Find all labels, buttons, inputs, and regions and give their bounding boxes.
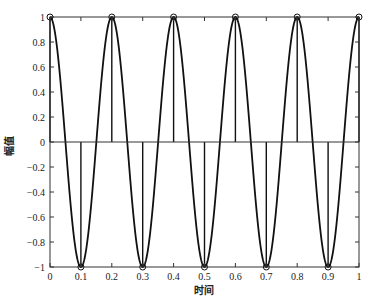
x-tick-label: 0.4	[167, 271, 180, 282]
y-tick-label: −0.4	[27, 187, 45, 198]
y-tick-label: 0.6	[33, 62, 46, 73]
x-tick-label: 0.7	[260, 271, 273, 282]
x-tick-label: 0.9	[322, 271, 335, 282]
y-tick-label: −1	[34, 262, 45, 273]
chart-canvas: 00.10.20.30.40.50.60.70.80.91 −1−0.8−0.6…	[0, 0, 369, 301]
y-tick-label: −0.2	[27, 162, 45, 173]
x-tick-label: 0	[48, 271, 53, 282]
x-axis-label: 时间	[194, 284, 214, 296]
x-tick-label: 0.1	[75, 271, 88, 282]
y-tick-label: 0.8	[33, 37, 46, 48]
y-axis-label: 幅值	[3, 136, 15, 156]
x-tick-label: 0.6	[229, 271, 242, 282]
y-tick-label: 0	[40, 137, 45, 148]
x-tick-label: 0.2	[106, 271, 119, 282]
x-tick-label: 0.8	[291, 271, 304, 282]
y-tick-label: −0.8	[27, 237, 45, 248]
y-tick-label: −0.6	[27, 212, 45, 223]
x-tick-label: 1	[357, 271, 362, 282]
x-tick-label: 0.3	[136, 271, 149, 282]
y-tick-label: 0.2	[33, 112, 46, 123]
y-tick-label: 0.4	[33, 87, 46, 98]
x-tick-label: 0.5	[198, 271, 211, 282]
y-tick-label: 1	[40, 12, 45, 23]
